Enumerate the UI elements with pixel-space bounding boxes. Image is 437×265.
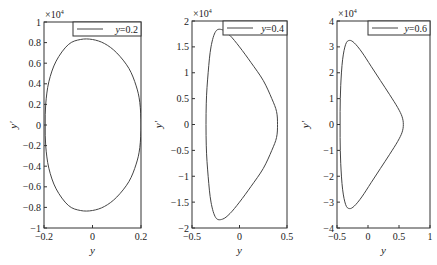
legend: y=0.2 [73,22,141,36]
y-tick-label: 0.2 [29,99,42,110]
axes-frame [337,21,430,228]
y-exponent-label: ×104 [338,8,357,19]
y-tick-label: 0 [184,119,189,130]
y-tick-label: −0.5 [171,145,189,156]
y-axis-label: y′ [7,121,19,130]
x-tick-label: 0 [237,231,242,242]
y-tick-label: 3 [329,41,334,52]
y-exponent-label: ×104 [45,9,64,20]
y-tick-label: 1 [36,17,41,28]
phase-plot-y-0.2: 10.80.60.40.20−0.2−0.4−0.6−0.8−1−0.200.2… [7,9,147,256]
phase-curve [45,39,141,211]
x-axis-label: y [89,244,95,256]
y-tick-label: −3 [323,197,334,208]
x-tick-label: 0.5 [393,231,406,242]
y-tick-label: 1.5 [177,41,190,52]
y-tick-label: −2 [323,171,334,182]
y-axis-label: y′ [152,120,164,129]
y-tick-label: −0.8 [23,202,41,213]
y-tick-label: 0.8 [29,37,42,48]
phase-curve [340,40,403,208]
y-exponent-label: ×104 [193,8,212,19]
x-tick-label: 0 [366,231,371,242]
y-tick-label: 0.6 [29,58,42,69]
y-tick-label: 2 [329,67,334,78]
y-tick-label: −0.6 [23,181,41,192]
x-tick-label: 0.2 [135,231,148,242]
y-tick-label: −1.5 [171,197,189,208]
axes-frame [44,22,141,228]
y-tick-label: −1 [178,171,189,182]
legend: y=0.4 [223,21,287,35]
x-tick-label: 1 [428,231,433,242]
y-axis-label: y′ [299,120,311,129]
x-axis-label: y [236,244,242,256]
y-tick-label: −1 [323,145,334,156]
y-tick-label: 0.4 [29,78,42,89]
figure: 10.80.60.40.20−0.2−0.4−0.6−0.8−1−0.200.2… [0,0,437,265]
y-tick-label: 0 [329,119,334,130]
y-tick-label: 2 [184,16,189,27]
y-tick-label: 0 [36,120,41,131]
phase-curve [206,29,277,220]
x-tick-label: −0.5 [328,231,346,242]
x-tick-label: 0 [90,231,95,242]
phase-plot-y-0.6: 43210−1−2−3−4−0.500.51×104yy′y=0.6 [299,8,433,256]
y-tick-label: 1 [184,67,189,78]
x-tick-label: 0.5 [281,231,294,242]
y-tick-label: 1 [329,93,334,104]
legend-label: y=0.6 [403,23,427,34]
legend-label: y=0.2 [114,24,138,35]
y-tick-label: 0.5 [177,93,190,104]
y-tick-label: −0.4 [23,161,41,172]
y-tick-label: 4 [329,16,334,27]
phase-plot-y-0.4: 21.510.50−0.5−1−1.5−2−0.500.5×104yy′y=0.… [152,8,293,256]
y-tick-label: −0.2 [23,140,41,151]
legend-label: y=0.4 [260,23,284,34]
x-axis-label: y [380,244,386,256]
x-tick-label: −0.2 [35,231,53,242]
x-tick-label: −0.5 [183,231,201,242]
legend: y=0.6 [368,21,430,35]
